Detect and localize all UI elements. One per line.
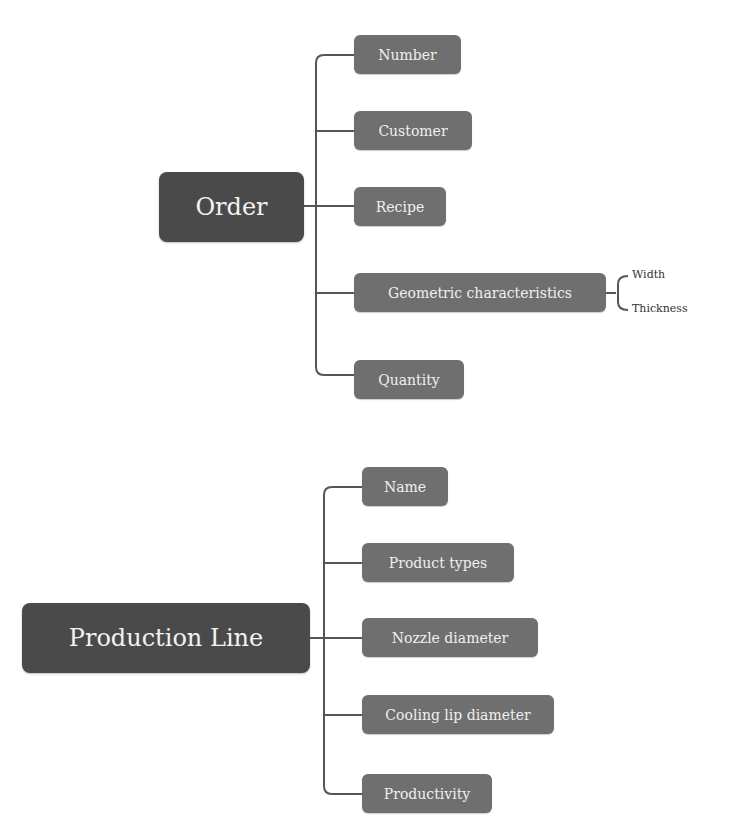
production-child-name[interactable]: Name bbox=[362, 467, 448, 506]
child-label: Number bbox=[378, 47, 436, 63]
child-label: Productivity bbox=[384, 786, 470, 802]
geometric-leaf-width[interactable]: Width bbox=[632, 268, 665, 281]
production-child-productivity[interactable]: Productivity bbox=[362, 774, 492, 813]
child-label: Nozzle diameter bbox=[392, 630, 509, 646]
child-label: Name bbox=[384, 479, 426, 495]
child-label: Product types bbox=[389, 555, 487, 571]
order-child-quantity[interactable]: Quantity bbox=[354, 360, 464, 399]
child-label: Cooling lip diameter bbox=[385, 707, 530, 723]
production-line-root-node[interactable]: Production Line bbox=[22, 603, 310, 673]
geometric-leaf-thickness[interactable]: Thickness bbox=[632, 302, 688, 315]
child-label: Recipe bbox=[376, 199, 424, 215]
order-child-number[interactable]: Number bbox=[354, 35, 461, 74]
production-child-cooling-lip-diameter[interactable]: Cooling lip diameter bbox=[362, 695, 554, 734]
order-root-node[interactable]: Order bbox=[159, 172, 304, 242]
child-label: Geometric characteristics bbox=[388, 285, 572, 301]
order-child-geometric[interactable]: Geometric characteristics bbox=[354, 273, 606, 312]
production-child-product-types[interactable]: Product types bbox=[362, 543, 514, 582]
order-root-label: Order bbox=[195, 193, 267, 221]
order-child-recipe[interactable]: Recipe bbox=[354, 187, 446, 226]
child-label: Quantity bbox=[378, 372, 440, 388]
child-label: Customer bbox=[378, 123, 447, 139]
order-child-customer[interactable]: Customer bbox=[354, 111, 472, 150]
production-line-root-label: Production Line bbox=[69, 624, 263, 652]
production-child-nozzle-diameter[interactable]: Nozzle diameter bbox=[362, 618, 538, 657]
